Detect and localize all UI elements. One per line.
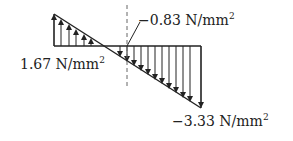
- compression-arrows: [120, 46, 201, 105]
- label-bottom-stress: −3.33 N/mm2: [172, 113, 269, 128]
- label-middle-stress: −0.83 N/mm2: [138, 12, 235, 27]
- stress-diagram: 1.67 N/mm2 −0.83 N/mm2 −3.33 N/mm2: [0, 0, 293, 141]
- label-top-stress: 1.67 N/mm2: [20, 56, 105, 71]
- tension-arrows: [54, 17, 91, 46]
